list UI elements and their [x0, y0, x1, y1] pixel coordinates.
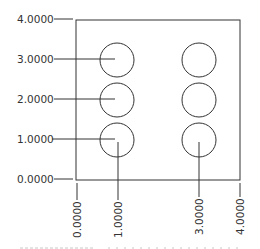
hole [100, 83, 134, 117]
x-label-3: 3.0000 [193, 198, 205, 235]
hole [100, 43, 134, 77]
drawing-canvas: 4.0000 3.0000 2.0000 1.0000 0.0000 0.000… [0, 0, 260, 249]
x-label-0: 0.0000 [71, 201, 83, 238]
y-label-3: 3.0000 [17, 53, 54, 65]
x-label-1: 1.0000 [112, 201, 124, 238]
y-label-1: 1.0000 [17, 133, 54, 145]
y-ordinate-leaders [52, 19, 115, 179]
y-label-0: 0.0000 [17, 173, 54, 185]
hole [182, 83, 216, 117]
holes [100, 43, 216, 157]
hole [182, 43, 216, 77]
x-ordinate-leaders [77, 142, 240, 200]
y-label-4: 4.0000 [17, 13, 54, 25]
plate-outline [76, 20, 240, 180]
x-label-4: 4.0000 [234, 198, 246, 235]
hole [100, 123, 134, 157]
y-label-2: 2.0000 [17, 93, 54, 105]
